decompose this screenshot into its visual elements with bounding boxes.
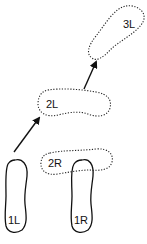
footprint-2L: 2L (38, 89, 110, 116)
footprint-label-3L: 3L (123, 18, 135, 30)
arrow-1L-to-2L (14, 118, 39, 152)
footprint-label-1L: 1L (8, 214, 20, 226)
footprint-1L: 1L (5, 160, 27, 233)
arrow-2L-to-3L (84, 62, 96, 89)
footprint-label-2R: 2R (48, 157, 62, 169)
footprint-3L: 3L (89, 6, 145, 60)
footstep-diagram: 3L 2L 2R 1L 1R (0, 0, 147, 244)
footprint-label-1R: 1R (74, 214, 88, 226)
footprint-label-2L: 2L (46, 98, 58, 110)
